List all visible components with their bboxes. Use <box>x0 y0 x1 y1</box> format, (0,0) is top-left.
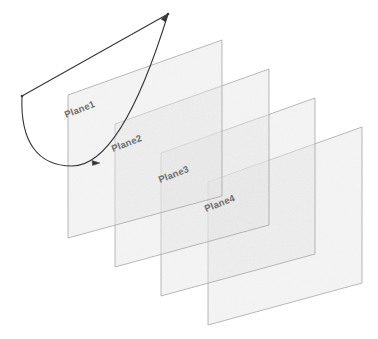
vertex-dot-left <box>21 95 24 98</box>
diagram-canvas: Plane1 Plane2 Plane3 Plane4 <box>0 0 378 339</box>
planes-diagram-svg: Plane1 Plane2 Plane3 Plane4 <box>0 0 378 339</box>
vertex-dot-top <box>167 13 170 16</box>
